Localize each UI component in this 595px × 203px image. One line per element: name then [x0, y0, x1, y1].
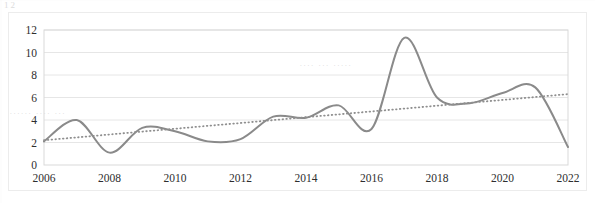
- plot-area-border: [9, 13, 587, 191]
- x-axis-tick-label: 2022: [557, 172, 580, 184]
- chart-figure: ...... .... ... .... ... ..... 024681012…: [0, 0, 595, 203]
- y-axis-tick-label: 4: [31, 114, 37, 126]
- x-axis-tick-label: 2016: [360, 172, 383, 184]
- y-axis-tick-label: 6: [31, 92, 37, 104]
- y-axis-tick-label: 2: [31, 137, 37, 149]
- x-axis-tick-label: 2010: [164, 172, 187, 184]
- y-axis-tick-label: 10: [26, 47, 38, 59]
- x-axis-tick-label: 2018: [426, 172, 449, 184]
- figure-frame: [9, 13, 587, 191]
- data-series-path: [44, 38, 568, 153]
- x-axis-tick-label: 2020: [491, 172, 514, 184]
- y-axis-tick-label: 12: [26, 24, 38, 36]
- series-lines: [44, 38, 568, 153]
- trendline-path: [44, 94, 568, 140]
- line-chart: 024681012 200620082010201220142016201820…: [0, 0, 595, 203]
- y-axis-tick-labels: 024681012: [26, 24, 38, 171]
- x-axis-tick-label: 2008: [98, 172, 121, 184]
- x-axis-tick-labels: 200620082010201220142016201820202022: [33, 172, 580, 184]
- y-axis-tick-label: 0: [31, 159, 37, 171]
- x-axis-tick-label: 2006: [33, 172, 56, 184]
- y-axis-tick-label: 8: [31, 69, 37, 81]
- x-axis-tick-label: 2012: [229, 172, 252, 184]
- x-axis-tick-label: 2014: [295, 172, 318, 184]
- gridlines: [44, 30, 568, 143]
